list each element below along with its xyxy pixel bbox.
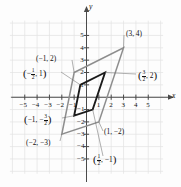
x-tick-label: 4 (134, 101, 138, 109)
point-label-neghalf-1: (−12, 1) (23, 68, 46, 80)
x-tick-label: 3 (122, 101, 126, 109)
fraction-three-halves: 32 (142, 70, 146, 82)
y-tick-label: −4 (77, 142, 84, 150)
fraction-one-half: 12 (31, 68, 35, 80)
point-label-neg2-neg3: (−2, −3) (26, 139, 50, 146)
point-label-3-4: (3, 4) (126, 30, 142, 37)
graph-canvas (0, 0, 181, 187)
x-tick-label: −3 (44, 101, 51, 109)
x-tick-label: 2 (109, 101, 113, 109)
x-tick-label: −4 (32, 101, 39, 109)
label-rest: , 1 (35, 69, 42, 78)
x-tick-label: 5 (146, 101, 150, 109)
y-tick-label: 3 (80, 56, 84, 64)
y-tick-label: 1 (80, 81, 84, 89)
coordinate-plane-figure: x y (−1, 2) (3, 4) (−2, −3) (1, −2) (−12… (0, 0, 181, 187)
x-tick-label: −1 (69, 101, 76, 109)
label-rest: , 2 (146, 71, 153, 80)
y-tick-label: −3 (77, 130, 84, 138)
fraction-three-halves: 32 (44, 114, 48, 126)
y-tick-label: 4 (80, 44, 84, 52)
x-tick-label: 1 (97, 101, 101, 109)
y-tick-label: −5 (77, 155, 84, 163)
point-label-neg1-2: (−1, 2) (36, 55, 56, 62)
label-rest: , −1 (101, 155, 113, 164)
y-axis-label: y (89, 2, 92, 11)
parallelograms (62, 48, 124, 134)
x-tick-label: −5 (20, 101, 27, 109)
y-tick-label: 2 (80, 68, 84, 76)
point-label-1-neg2: (1, −2) (104, 128, 124, 135)
point-label-half-neg1: (12, −1) (93, 154, 116, 166)
point-label-3over2-2: (32, 2) (138, 70, 157, 82)
label-lead: −1, − (28, 115, 44, 124)
y-tick-label: −2 (77, 118, 84, 126)
y-tick-label: 5 (80, 31, 84, 39)
point-label-neg1-neg3over2: (−1, −32) (24, 114, 51, 126)
x-axis-label: x (172, 91, 175, 100)
fraction-one-half: 12 (97, 154, 101, 166)
y-tick-label: −1 (77, 105, 84, 113)
x-tick-label: −2 (57, 101, 64, 109)
